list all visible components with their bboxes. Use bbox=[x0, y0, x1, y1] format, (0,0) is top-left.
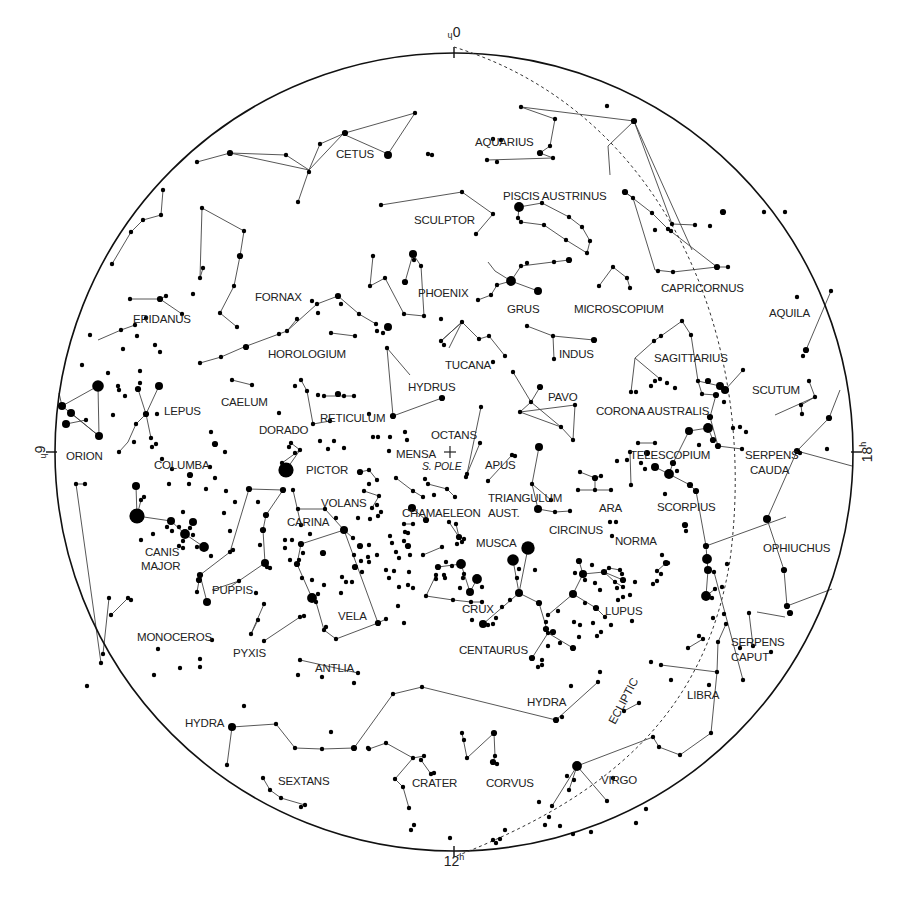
constellation-line bbox=[548, 633, 573, 648]
star-icon bbox=[573, 403, 577, 407]
star-icon bbox=[665, 381, 669, 385]
star-icon bbox=[611, 265, 615, 269]
star-icon bbox=[191, 533, 195, 537]
constellation-label: CETUS bbox=[336, 148, 375, 160]
star-icon bbox=[710, 596, 714, 600]
star-icon bbox=[649, 660, 653, 664]
star-icon bbox=[316, 393, 320, 397]
star-icon bbox=[384, 151, 392, 159]
star-icon bbox=[181, 546, 185, 550]
star-icon bbox=[407, 806, 411, 810]
star-icon bbox=[411, 489, 415, 493]
star-icon bbox=[572, 761, 582, 771]
star-icon bbox=[622, 709, 626, 713]
star-icon bbox=[298, 615, 302, 619]
constellation-label: HOROLOGIUM bbox=[268, 348, 346, 360]
constellation-label: ERIDANUS bbox=[133, 313, 191, 325]
star-icon bbox=[209, 430, 213, 434]
star-icon bbox=[456, 534, 462, 540]
star-icon bbox=[142, 495, 146, 499]
star-icon bbox=[486, 623, 490, 627]
star-icon bbox=[625, 458, 629, 462]
star-icon bbox=[356, 516, 360, 520]
star-icon bbox=[599, 630, 603, 634]
constellation-line bbox=[577, 733, 711, 766]
star-icon bbox=[254, 591, 258, 595]
star-icon bbox=[368, 284, 372, 288]
constellation-line bbox=[478, 281, 511, 300]
constellation-line bbox=[552, 766, 577, 806]
constellation-label: MAJOR bbox=[141, 560, 180, 572]
star-icon bbox=[525, 324, 529, 328]
star-icon bbox=[598, 670, 602, 674]
star-icon bbox=[503, 354, 507, 358]
star-icon bbox=[153, 343, 157, 347]
star-icon bbox=[448, 836, 452, 840]
star-icon bbox=[368, 517, 372, 521]
star-icon bbox=[371, 435, 375, 439]
star-icon bbox=[593, 605, 599, 611]
star-icon bbox=[195, 590, 199, 594]
star-icon bbox=[631, 118, 637, 124]
star-icon bbox=[353, 334, 357, 338]
star-icon bbox=[639, 461, 643, 465]
constellation-label: COLUMBA bbox=[154, 459, 210, 471]
star-icon bbox=[553, 117, 557, 121]
star-icon bbox=[507, 554, 519, 566]
star-icon bbox=[58, 402, 66, 410]
star-icon bbox=[199, 542, 209, 552]
star-icon bbox=[651, 582, 655, 586]
star-icon bbox=[352, 394, 356, 398]
star-icon bbox=[458, 586, 462, 590]
constellation-label: LUPUS bbox=[605, 605, 643, 617]
hour-label-18h: 18h bbox=[858, 442, 875, 463]
star-icon bbox=[342, 130, 348, 136]
star-icon bbox=[250, 383, 254, 387]
star-icon bbox=[375, 478, 379, 482]
star-icon bbox=[517, 567, 521, 571]
star-icon bbox=[394, 476, 398, 480]
star-icon bbox=[219, 355, 223, 359]
constellation-line bbox=[232, 380, 252, 385]
constellation-label: RETICULUM bbox=[320, 412, 385, 424]
constellation-label: OCTANS bbox=[431, 429, 477, 441]
constellation-label: AQUILA bbox=[769, 307, 811, 319]
star-icon bbox=[201, 266, 205, 270]
constellation-line bbox=[263, 490, 283, 563]
star-icon bbox=[158, 350, 162, 354]
star-icon bbox=[659, 572, 663, 576]
star-icon bbox=[629, 483, 633, 487]
constellation-label: CIRCINUS bbox=[549, 524, 604, 536]
star-icon bbox=[296, 200, 300, 204]
constellation-label: NORMA bbox=[615, 535, 657, 547]
star-icon bbox=[628, 286, 632, 290]
star-icon bbox=[591, 621, 595, 625]
constellation-line bbox=[264, 617, 300, 641]
star-icon bbox=[687, 482, 693, 488]
star-icon bbox=[461, 576, 465, 580]
star-icon bbox=[697, 443, 701, 447]
constellation-label: TRIANGULUM bbox=[488, 492, 562, 504]
star-icon bbox=[460, 320, 464, 324]
star-icon bbox=[402, 312, 406, 316]
star-icon bbox=[435, 564, 441, 570]
star-icon bbox=[326, 447, 330, 451]
star-icon bbox=[300, 576, 304, 580]
constellation-line bbox=[513, 372, 540, 402]
star-icon bbox=[707, 683, 711, 687]
constellation-line bbox=[634, 121, 695, 225]
constellation-line bbox=[136, 486, 204, 547]
star-icon bbox=[280, 461, 284, 465]
star-icon bbox=[519, 220, 523, 224]
star-icon bbox=[377, 494, 381, 498]
star-icon bbox=[187, 482, 191, 486]
star-icon bbox=[422, 314, 426, 318]
star-icon bbox=[110, 262, 114, 266]
star-icon bbox=[403, 430, 407, 434]
star-icon bbox=[744, 430, 748, 434]
star-icon bbox=[129, 230, 133, 234]
star-icon bbox=[442, 343, 446, 347]
star-icon bbox=[465, 756, 469, 760]
star-icon bbox=[637, 701, 641, 705]
star-icon bbox=[609, 623, 613, 627]
